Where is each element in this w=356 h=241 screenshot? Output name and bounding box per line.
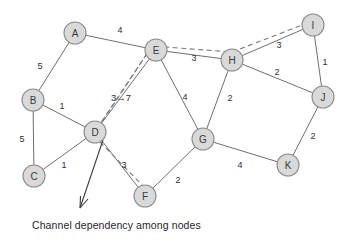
node-label-b: B <box>30 95 37 106</box>
edge-e-g <box>161 60 198 130</box>
node-label-f: F <box>142 191 148 202</box>
node-f[interactable]: F <box>134 185 156 207</box>
annotation-label-0: 3→7 <box>111 92 131 103</box>
node-label-a: A <box>72 28 79 39</box>
edge-f-g <box>153 147 195 189</box>
edge-weight-h-i: 3 <box>276 40 281 50</box>
edge-weight-a-e: 4 <box>117 25 122 35</box>
node-label-i: I <box>312 20 315 31</box>
edge-weight-d-f: 3 <box>121 160 126 170</box>
arrow-shaft <box>80 140 103 208</box>
node-label-e: E <box>153 45 160 56</box>
edge-a-e <box>86 35 145 47</box>
node-g[interactable]: G <box>192 128 214 150</box>
node-e[interactable]: E <box>145 39 167 61</box>
edge-weight-i-j: 1 <box>322 57 327 67</box>
edge-weight-b-c: 5 <box>19 134 24 144</box>
node-i[interactable]: I <box>302 14 324 36</box>
edge-weight-g-k: 4 <box>237 160 242 170</box>
node-label-d: D <box>91 127 98 138</box>
annotations-layer: 3→7 <box>111 92 131 103</box>
edge-weight-g-h: 2 <box>227 93 232 103</box>
edge-weight-a-b: 5 <box>37 61 42 71</box>
caption-arrow <box>80 140 103 208</box>
edge-h-i <box>242 29 303 55</box>
node-b[interactable]: B <box>22 89 44 111</box>
node-j[interactable]: J <box>312 86 334 108</box>
edge-weight-e-g: 4 <box>182 92 187 102</box>
node-c[interactable]: C <box>23 165 45 187</box>
node-h[interactable]: H <box>221 49 243 71</box>
edge-weight-h-j: 2 <box>274 67 279 77</box>
figure-caption: Channel dependency among nodes <box>32 219 201 231</box>
edge-g-h <box>207 70 228 128</box>
node-d[interactable]: D <box>84 121 106 143</box>
edge-weight-b-d: 1 <box>59 101 64 111</box>
channel-dependency-graph: 451513342243212 ABCDEFGHIJK 3→7 <box>0 0 356 241</box>
node-label-c: C <box>30 171 37 182</box>
edge-b-c <box>33 111 34 165</box>
node-label-g: G <box>199 134 207 145</box>
edge-a-b <box>39 42 69 90</box>
node-label-j: J <box>321 92 326 103</box>
edge-g-k <box>214 142 278 162</box>
edge-weight-c-d: 1 <box>61 160 66 170</box>
node-label-h: H <box>228 55 235 66</box>
edge-d-f <box>102 141 138 188</box>
node-a[interactable]: A <box>64 22 86 44</box>
edge-weight-f-g: 2 <box>175 175 180 185</box>
figure-canvas: 451513342243212 ABCDEFGHIJK 3→7 Channel … <box>0 0 356 241</box>
edge-weight-j-k: 2 <box>310 131 315 141</box>
edge-weight-e-h: 3 <box>191 53 196 63</box>
node-k[interactable]: K <box>277 154 299 176</box>
node-label-k: K <box>285 160 292 171</box>
edge-i-j <box>315 36 322 86</box>
